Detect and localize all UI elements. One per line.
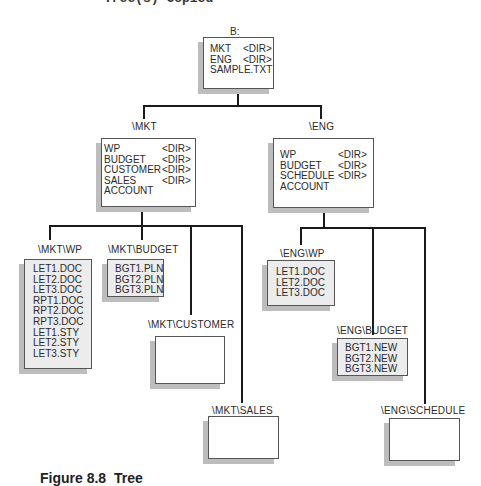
root-stem [237, 89, 239, 106]
eng-branch [300, 227, 425, 229]
mkt-budget-label: \MKT\BUDGET [108, 244, 179, 255]
mkt-sales-label: \MKT\SALES [212, 405, 273, 416]
mkt-budget-stem [141, 225, 143, 240]
entry-row: WP<DIR> [104, 144, 191, 155]
mkt-wp-label: \MKT\WP [38, 244, 82, 255]
eng-stem [323, 208, 325, 228]
mkt-customer-stem [190, 225, 192, 315]
eng-label: \ENG [309, 121, 334, 132]
root-directory-box: MKT<DIR> ENG<DIR> SAMPLE.TXT [203, 37, 274, 89]
file-item: BGT3.PLN [115, 285, 163, 296]
file-item: BGT1.PLN [115, 264, 163, 275]
file-item: LET1.DOC [276, 267, 325, 278]
file-item: BGT3.NEW [345, 364, 397, 375]
entry-row: SAMPLE.TXT [210, 65, 272, 76]
mkt-branch [49, 225, 243, 227]
mkt-customer-box [155, 336, 225, 384]
eng-schedule-box [389, 418, 460, 461]
mkt-stem [141, 208, 143, 226]
entry-row: ACCOUNT [280, 182, 367, 193]
root-branch [143, 105, 322, 107]
mkt-budget-box: BGT1.PLN BGT2.PLN BGT3.PLN [107, 259, 164, 297]
eng-schedule-label: \ENG\SCHEDULE [381, 405, 465, 416]
file-item: RPT3.DOC [33, 317, 84, 328]
eng-schedule-stem [424, 227, 426, 404]
eng-budget-label: \ENG\BUDGET [337, 325, 408, 336]
file-item: LET3.STY [33, 349, 84, 360]
mkt-sales-box [208, 416, 279, 459]
eng-wp-label: \ENG\WP [280, 248, 325, 259]
mkt-label: \MKT [132, 121, 157, 132]
file-item: LET1.DOC [33, 264, 84, 275]
eng-budget-box: BGT1.NEW BGT2.NEW BGT3.NEW [337, 338, 408, 376]
entry-row: MKT<DIR> [210, 44, 272, 55]
mkt-sales-stem [241, 225, 243, 403]
eng-directory-box: WP<DIR> BUDGET<DIR> SCHEDULE<DIR> ACCOUN… [273, 138, 374, 208]
figure-caption: Figure 8.8 Tree [40, 470, 143, 486]
file-item: BGT1.NEW [345, 343, 397, 354]
cut-off-heading: Tree(s) Copied [104, 0, 213, 6]
eng-stem-top [320, 105, 322, 119]
file-item: LET3.DOC [276, 288, 325, 299]
eng-budget-stem [372, 227, 374, 335]
mkt-wp-stem [49, 225, 51, 240]
entry-row: ACCOUNT [104, 186, 191, 197]
root-label: B: [230, 26, 240, 37]
mkt-directory-box: WP<DIR> BUDGET<DIR> CUSTOMER<DIR> SALES<… [101, 138, 196, 207]
mkt-wp-box: LET1.DOC LET2.DOC LET3.DOC RPT1.DOC RPT2… [24, 259, 92, 369]
mkt-stem-top [143, 105, 145, 119]
mkt-customer-label: \MKT\CUSTOMER [148, 319, 234, 330]
eng-wp-box: LET1.DOC LET2.DOC LET3.DOC [267, 260, 335, 306]
entry-row: WP<DIR> [280, 150, 367, 161]
eng-wp-stem [300, 227, 302, 245]
